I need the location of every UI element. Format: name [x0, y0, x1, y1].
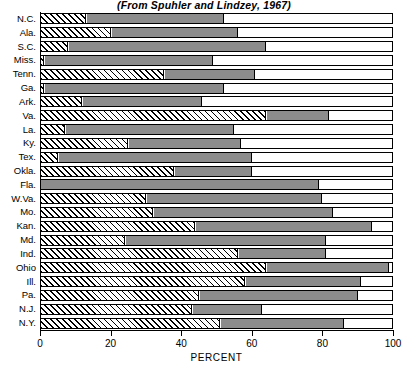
bar-outline: [40, 41, 393, 52]
bar-segment-hatched: [41, 139, 128, 148]
bar-segment-white: [214, 56, 393, 65]
bar-segment-white: [362, 277, 393, 286]
bar-segment-hatched: [41, 56, 44, 65]
bar-row: [40, 13, 393, 24]
bar-segment-gray: [45, 56, 213, 65]
y-axis-label-wva: W.Va.: [0, 194, 36, 204]
bar-segment-gray: [154, 208, 333, 217]
bar-row: [40, 96, 393, 107]
bar-segment-white: [242, 139, 393, 148]
x-axis-line: [40, 330, 394, 331]
bar-row: [40, 318, 393, 329]
bar-segment-white: [263, 305, 393, 314]
bar-segment-gray: [45, 84, 224, 93]
bar-segment-white: [330, 111, 393, 120]
bar-outline: [40, 304, 393, 315]
bar-outline: [40, 55, 393, 66]
bar-segment-gray: [87, 14, 224, 23]
bar-row: [40, 166, 393, 177]
y-axis-label-pa: Pa.: [0, 290, 36, 300]
bar-segment-gray: [83, 97, 202, 106]
y-axis-label-nc: N.C.: [0, 14, 36, 24]
bar-segment-hatched: [41, 111, 266, 120]
bar-row: [40, 276, 393, 287]
bar-segment-white: [320, 180, 393, 189]
bar-row: [40, 235, 393, 246]
bar-segment-white: [323, 194, 393, 203]
bar-segment-white: [225, 84, 393, 93]
bar-outline: [40, 207, 393, 218]
bar-segment-white: [327, 249, 393, 258]
bar-row: [40, 138, 393, 149]
y-axis-label-la: La.: [0, 125, 36, 135]
y-axis-label-ill: Ill.: [0, 277, 36, 287]
y-axis-label-kan: Kan.: [0, 221, 36, 231]
bar-row: [40, 41, 393, 52]
bar-segment-gray: [41, 180, 319, 189]
bar-segment-gray: [69, 42, 266, 51]
y-axis-label-ala: Ala.: [0, 28, 36, 38]
y-axis-label-mo: Mo.: [0, 207, 36, 217]
bar-segment-white: [203, 97, 393, 106]
bar-segment-white: [373, 222, 393, 231]
x-tick-40: [181, 331, 182, 336]
bar-segment-white: [267, 42, 393, 51]
y-axis-label-okla: Okla.: [0, 166, 36, 176]
x-tick-label-60: 60: [232, 338, 272, 349]
bar-outline: [40, 318, 393, 329]
bar-segment-hatched: [41, 236, 125, 245]
bar-outline: [40, 83, 393, 94]
y-axis-label-ga: Ga.: [0, 83, 36, 93]
bar-outline: [40, 248, 393, 259]
y-axis-label-ny: N.Y.: [0, 318, 36, 328]
bar-segment-white: [253, 167, 393, 176]
bar-outline: [40, 290, 393, 301]
bar-segment-white: [256, 70, 393, 79]
bar-segment-gray: [126, 236, 326, 245]
bar-row: [40, 290, 393, 301]
bar-outline: [40, 221, 393, 232]
bar-row: [40, 124, 393, 135]
bar-segment-hatched: [41, 70, 164, 79]
bar-segment-white: [327, 236, 393, 245]
bar-segment-white: [225, 14, 393, 23]
bar-outline: [40, 235, 393, 246]
bar-segment-white: [390, 263, 393, 272]
chart-title: (From Spuhler and Lindzey, 1967): [0, 0, 408, 11]
x-tick-label-20: 20: [91, 338, 131, 349]
bar-outline: [40, 179, 393, 190]
x-tick-60: [252, 331, 253, 336]
bar-segment-gray: [267, 263, 390, 272]
bar-segment-white: [235, 125, 393, 134]
bar-segment-gray: [175, 167, 252, 176]
y-axis-label-ohio: Ohio: [0, 263, 36, 273]
bar-segment-gray: [66, 125, 234, 134]
y-axis-label-ind: Ind.: [0, 249, 36, 259]
y-axis-label-md: Md.: [0, 235, 36, 245]
bar-segment-hatched: [41, 249, 238, 258]
bar-row: [40, 221, 393, 232]
bar-row: [40, 55, 393, 66]
bar-segment-white: [334, 208, 393, 217]
y-axis-label-nj: N.J.: [0, 304, 36, 314]
bar-outline: [40, 193, 393, 204]
bar-outline: [40, 276, 393, 287]
bar-segment-gray: [147, 194, 323, 203]
bar-segment-hatched: [41, 319, 220, 328]
bar-segment-hatched: [41, 28, 111, 37]
bar-segment-white: [253, 153, 393, 162]
bar-segment-hatched: [41, 222, 195, 231]
bar-segment-gray: [196, 222, 372, 231]
bar-segment-gray: [239, 249, 326, 258]
bar-segment-hatched: [41, 42, 68, 51]
bar-outline: [40, 69, 393, 80]
y-axis-label-va: Va.: [0, 111, 36, 121]
y-axis-label-ark: Ark.: [0, 97, 36, 107]
bar-segment-gray: [193, 305, 263, 314]
bar-segment-hatched: [41, 84, 44, 93]
bar-segment-gray: [129, 139, 241, 148]
bar-row: [40, 179, 393, 190]
bar-segment-white: [239, 28, 393, 37]
bar-row: [40, 69, 393, 80]
bar-row: [40, 248, 393, 259]
